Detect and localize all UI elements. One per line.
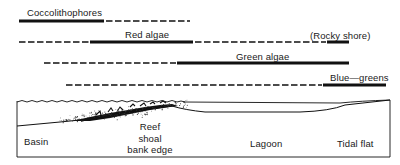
label-green-algae: Green algae bbox=[236, 52, 289, 62]
zone-tidal-flat: Tidal flat bbox=[337, 139, 374, 149]
zone-bank-edge: bank edge bbox=[120, 145, 180, 155]
label-blue-greens: Blue—greens bbox=[330, 73, 389, 83]
water-surface-line bbox=[183, 100, 390, 103]
cross-section bbox=[17, 100, 390, 157]
zone-basin: Basin bbox=[24, 137, 48, 147]
label-red-algae: Red algae bbox=[125, 30, 169, 40]
seafloor-profile bbox=[17, 100, 390, 126]
water-surface-waves bbox=[17, 101, 185, 103]
zone-reef: Reef bbox=[120, 122, 180, 132]
label-rocky-shore: (Rocky shore) bbox=[310, 31, 370, 41]
zone-lagoon: Lagoon bbox=[250, 139, 282, 149]
zone-shoal: shoal bbox=[120, 134, 180, 144]
label-coccolithophores: Coccolithophores bbox=[27, 8, 102, 18]
